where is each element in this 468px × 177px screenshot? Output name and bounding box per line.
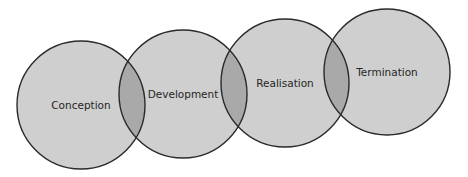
lifecycle-diagram: Conception Development Realisation Termi… (0, 0, 468, 177)
label-termination: Termination (355, 66, 418, 78)
label-conception: Conception (51, 99, 110, 111)
label-development: Development (148, 88, 219, 100)
label-realisation: Realisation (256, 77, 314, 89)
